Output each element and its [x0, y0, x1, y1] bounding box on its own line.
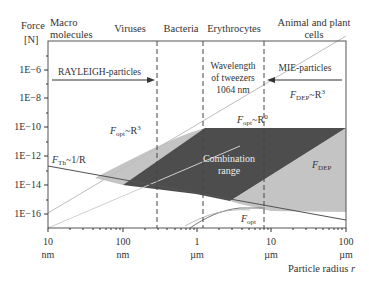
y-axis-ticks [44, 56, 48, 214]
x-tick-value: 10 [266, 236, 276, 247]
combination-range-line1: Combination [203, 153, 255, 164]
y-tick-label: 1E−14 [14, 179, 41, 190]
rayleigh-arrow [52, 77, 155, 83]
fopt-r0-label: Fopt~R0 [236, 113, 268, 127]
category-viruses: Viruses [114, 23, 145, 34]
mie-arrow [267, 77, 342, 83]
mie-label: MIE-particles [279, 63, 332, 73]
category-cells-line2: cells [304, 29, 323, 40]
x-tick-value: 10 [43, 236, 53, 247]
x-tick-unit: µm [264, 249, 278, 260]
category-macromolecules-line2: molecules [50, 29, 93, 40]
category-cells-line1: Animal and plant [278, 17, 351, 28]
wavelength-line2: of tweezers [211, 73, 255, 83]
x-tick-unit: nm [42, 249, 55, 260]
x-tick-value: 100 [339, 236, 354, 247]
x-tick-unit: µm [190, 249, 204, 260]
rayleigh-label: RAYLEIGH-particles [58, 67, 141, 77]
y-axis-label-line2: [N] [24, 34, 39, 45]
x-tick-value: 1 [195, 236, 200, 247]
fopt-bottom-label: Fopt [240, 213, 256, 226]
x-tick-unit: µm [339, 249, 353, 260]
x-tick-unit: nm [117, 249, 130, 260]
wavelength-line3: 1064 nm [216, 85, 250, 95]
y-tick-label: 1E−10 [14, 121, 41, 132]
y-tick-label: 1E−6 [19, 64, 41, 75]
wavelength-line1: Wavelength [210, 61, 255, 71]
x-tick-value: 100 [116, 236, 131, 247]
y-tick-label: 1E−16 [14, 208, 41, 219]
x-axis-ticks [48, 228, 346, 232]
force-vs-radius-chart: Force [N] 1E−6 1E−8 1E−10 1E−12 1E−14 1E… [0, 0, 369, 284]
fdep-r3-label: FDEP~R3 [289, 88, 325, 102]
x-axis-title: Particle radius r [288, 263, 356, 274]
category-bacteria: Bacteria [164, 23, 199, 34]
fth-label: FTh~1/R [51, 154, 86, 167]
category-erythrocytes: Erythrocytes [207, 23, 261, 34]
y-tick-label: 1E−12 [14, 150, 41, 161]
fopt-r3-label: Fopt~R3 [109, 124, 141, 138]
y-tick-label: 1E−8 [19, 92, 41, 103]
combination-range-line2: range [218, 165, 241, 176]
category-macromolecules-line1: Macro [50, 17, 77, 28]
y-axis-label-line1: Force [21, 20, 45, 31]
